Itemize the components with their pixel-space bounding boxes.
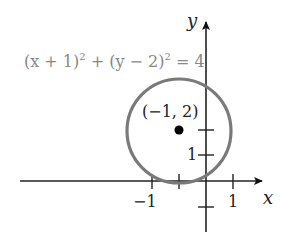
x-axis-label: x [263,189,273,207]
y-tick-label-pos1: 1 [187,147,197,163]
center-point [175,126,184,135]
circle-equation: (x + 1)2 + (y − 2)2 = 4 [24,52,205,70]
circle-diagram: (x + 1)2 + (y − 2)2 = 4 (−1, 2) y x −1 1… [0,0,294,241]
center-label: (−1, 2) [142,104,198,120]
x-tick-label-neg1: −1 [133,194,157,210]
x-tick-label-pos1: 1 [228,194,238,210]
y-axis-label: y [187,12,197,30]
